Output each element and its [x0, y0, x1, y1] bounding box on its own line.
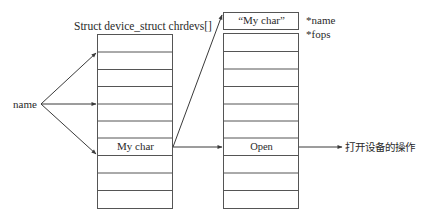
diagram-canvas: Struct device_struct chrdevs[] name My c… [0, 0, 434, 223]
struct-arrows [173, 15, 222, 147]
chrdevs-table [98, 35, 173, 209]
diagram-lines [0, 0, 434, 223]
fops-table [224, 34, 299, 209]
field-fops-label: *fops [306, 28, 330, 40]
output-label: 打开设备的操作 [345, 141, 415, 153]
name-arrows [41, 53, 96, 154]
name-label: name [13, 98, 37, 110]
my-char-cell: My char [98, 138, 173, 155]
chrdevs-title: Struct device_struct chrdevs[] [74, 20, 212, 32]
field-name-label: *name [306, 14, 335, 26]
name-box-label: “My char” [224, 12, 299, 29]
open-cell: Open [224, 138, 299, 155]
